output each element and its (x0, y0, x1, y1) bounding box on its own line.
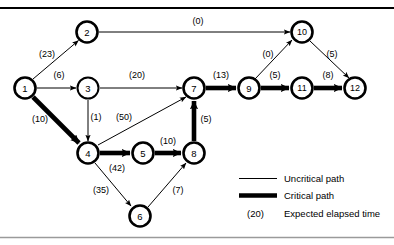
node-3[interactable]: 3 (78, 78, 99, 99)
node-12[interactable]: 12 (345, 78, 366, 99)
node-label-5: 5 (140, 148, 145, 159)
edge-label-5-8: (10) (160, 136, 176, 146)
legend-label-expected-time: Expected elapsed time (284, 208, 380, 219)
legend-item-uncritical: Uncritical path (239, 173, 344, 184)
edge-label-10-12: (5) (327, 49, 338, 59)
node-11[interactable]: 11 (292, 78, 313, 99)
node-1[interactable]: 1 (15, 78, 36, 99)
edge-label-9-10: (0) (263, 49, 274, 59)
edge-label-1-3: (6) (54, 70, 65, 80)
node-2[interactable]: 2 (77, 22, 98, 43)
node-8[interactable]: 8 (184, 143, 205, 164)
edge-label-6-8: (7) (173, 185, 184, 195)
edge-label-2-10: (0) (193, 16, 204, 26)
legend-item-critical: Critical path (239, 190, 334, 201)
legend-label-uncritical: Uncritical path (284, 173, 344, 184)
edge-label-4-5: (42) (109, 163, 125, 173)
node-label-12: 12 (350, 83, 360, 93)
edge-label-1-2: (23) (39, 49, 55, 59)
edge-label-1-4: (10) (32, 114, 48, 124)
node-10[interactable]: 10 (292, 22, 313, 43)
node-9[interactable]: 9 (239, 78, 260, 99)
node-label-8: 8 (191, 148, 196, 159)
figure-container: 1 2 3 4 5 6 7 (0, 0, 394, 245)
node-label-3: 3 (85, 83, 90, 94)
node-label-10: 10 (297, 27, 307, 37)
node-label-4: 4 (85, 148, 90, 159)
legend-value-sample: (20) (247, 208, 264, 219)
edge-labels: (23) (6) (10) (0) (1) (20) (50) (42) (35… (32, 16, 338, 195)
edge-label-9-11: (5) (270, 70, 281, 80)
legend-item-expected-time: (20) Expected elapsed time (247, 208, 380, 219)
pert-network-diagram: 1 2 3 4 5 6 7 (0, 0, 394, 245)
edge-label-3-4: (1) (91, 112, 102, 122)
node-7[interactable]: 7 (184, 78, 205, 99)
edge-label-4-7: (50) (116, 112, 132, 122)
node-label-7: 7 (191, 83, 196, 94)
node-5[interactable]: 5 (133, 143, 154, 164)
edge-label-11-12: (8) (323, 70, 334, 80)
node-label-9: 9 (246, 83, 251, 94)
edge-label-3-7: (20) (129, 70, 145, 80)
edge-label-7-9: (13) (213, 70, 229, 80)
node-label-1: 1 (22, 83, 27, 94)
edge-label-4-6: (35) (93, 185, 109, 195)
node-6[interactable]: 6 (130, 206, 151, 227)
legend: Uncritical path Critical path (20) Expec… (239, 173, 380, 219)
edge-label-8-7: (5) (201, 114, 212, 124)
node-label-11: 11 (297, 83, 306, 93)
node-label-2: 2 (84, 27, 89, 38)
node-label-6: 6 (137, 211, 142, 222)
node-4[interactable]: 4 (78, 143, 99, 164)
legend-label-critical: Critical path (284, 190, 334, 201)
